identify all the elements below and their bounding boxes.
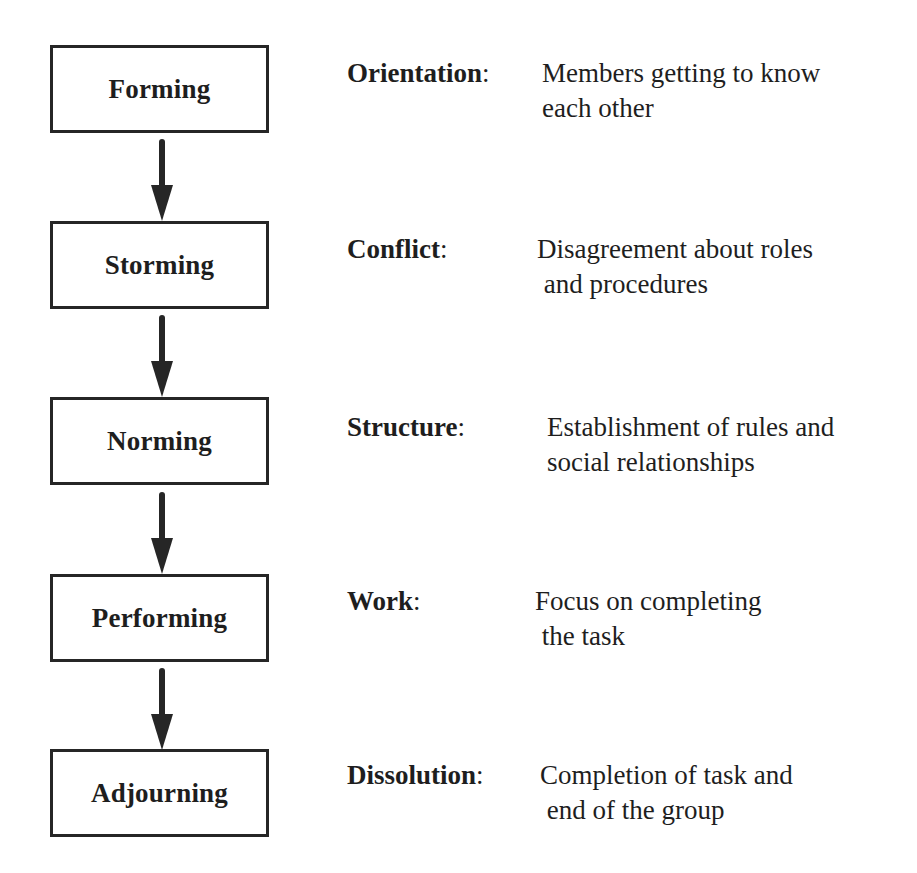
label-text: Conflict (347, 234, 440, 264)
label-text: Orientation (347, 58, 482, 88)
stage-label: Work: (347, 584, 421, 619)
stage-box-forming: Forming (50, 45, 269, 133)
label-text: Dissolution (347, 760, 476, 790)
label-colon: : (457, 412, 465, 442)
arrow-down-icon (150, 668, 174, 750)
description-line-2: the task (535, 619, 625, 654)
label-colon: : (482, 58, 490, 88)
description-line-2: social relationships (547, 445, 755, 480)
stage-name: Adjourning (91, 778, 228, 809)
label-text: Work (347, 586, 413, 616)
description-line-1: Focus on completing (535, 584, 761, 619)
stage-label: Dissolution: (347, 758, 484, 793)
description-line-1: Disagreement about roles (537, 232, 813, 267)
description-line-1: Members getting to know (542, 56, 820, 91)
description-line-2: end of the group (540, 793, 724, 828)
stage-name: Norming (107, 426, 212, 457)
stage-box-norming: Norming (50, 397, 269, 485)
stage-box-storming: Storming (50, 221, 269, 309)
stage-label: Orientation: (347, 56, 490, 91)
label-text: Structure (347, 412, 457, 442)
description-line-2: each other (542, 91, 654, 126)
description-line-1: Completion of task and (540, 758, 793, 793)
arrow-down-icon (150, 492, 174, 574)
description-line-1: Establishment of rules and (547, 410, 834, 445)
arrow-down-icon (150, 315, 174, 397)
description-line-2: and procedures (537, 267, 708, 302)
label-colon: : (476, 760, 484, 790)
arrow-down-icon (150, 139, 174, 221)
stage-box-performing: Performing (50, 574, 269, 662)
stage-box-adjourning: Adjourning (50, 749, 269, 837)
stage-name: Forming (109, 74, 211, 105)
stage-label: Structure: (347, 410, 465, 445)
label-colon: : (440, 234, 448, 264)
stage-name: Performing (92, 603, 227, 634)
stage-label: Conflict: (347, 232, 448, 267)
stage-name: Storming (105, 250, 215, 281)
label-colon: : (413, 586, 421, 616)
